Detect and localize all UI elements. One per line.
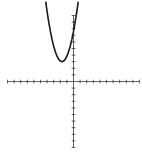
- coordinate-plane: [0, 0, 142, 155]
